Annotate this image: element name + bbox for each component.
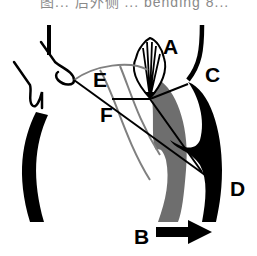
label-d: D — [230, 177, 245, 200]
label-c: C — [205, 63, 220, 86]
left-hook-outline — [14, 62, 42, 108]
left-curved-band — [22, 112, 48, 222]
label-f: F — [100, 103, 113, 126]
anatomical-diagram: A B C D E F — [0, 0, 257, 256]
c-structure-line — [188, 25, 202, 80]
label-e: E — [93, 68, 107, 91]
label-b: B — [134, 225, 149, 248]
grey-band — [150, 82, 187, 222]
label-a: A — [163, 35, 178, 58]
upper-hook-outline — [41, 42, 74, 85]
arrow-b-right — [156, 220, 212, 244]
